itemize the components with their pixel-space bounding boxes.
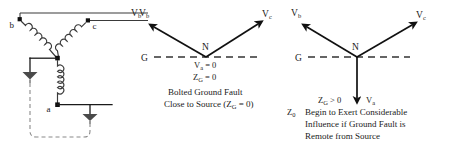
right-caption-line2: Influence if Ground Fault is [305,119,406,129]
middle-neutral-label-n: N [202,42,209,52]
ground-symbol-fault [83,114,98,124]
middle-phasor-diagram: G Vb Vc N Va = 0 ZG = 0 Bolted Ground Fa… [139,8,272,111]
terminal-label-b: b [10,20,15,30]
middle-phasor-label-vc: Vc [262,9,272,20]
right-phasor-vc [357,25,412,57]
right-caption-line1: Begin to Exert Considerable [305,107,407,117]
middle-phasor-vc [206,24,258,57]
middle-phasor-vb [154,27,206,57]
middle-equation-zg: ZG = 0 [193,72,216,83]
wye-circuit-diagram: b c a [10,8,149,137]
right-neutral-label-n: N [352,42,359,52]
right-phasor-label-vc: Vc [416,10,426,21]
middle-caption-line1: Bolted Ground Fault [168,87,243,97]
winding-c [55,23,85,57]
middle-caption-line2: Close to Source (ZG = 0) [164,99,254,110]
ground-fault-phasor-figure: b c a [0,0,457,150]
right-z0-label: Z0 [287,107,295,118]
ground-return-path [30,83,90,137]
terminal-label-c: c [93,21,97,31]
middle-ground-label-g: G [141,53,148,63]
winding-b [22,22,57,58]
right-phasor-diagram: G Vb Vc N ZG > 0 Va Z0 Begin to Exert Co… [287,8,426,142]
terminal-label-a: a [47,104,51,114]
right-condition-zg: ZG > 0 [318,95,341,106]
right-phasor-vb [307,27,357,57]
right-phasor-label-va: Va [366,95,375,106]
middle-phasor-label-vb: Vb [139,8,149,19]
terminal-dot-c [86,18,90,22]
right-phasor-label-vb: Vb [291,8,301,19]
middle-equation-va: Va = 0 [194,60,216,71]
terminal-dot-b [18,17,22,21]
right-caption-line3: Remote from Source [305,131,380,141]
winding-a [58,61,64,104]
ground-symbol-source [23,72,38,83]
right-ground-label-g: G [295,53,302,63]
